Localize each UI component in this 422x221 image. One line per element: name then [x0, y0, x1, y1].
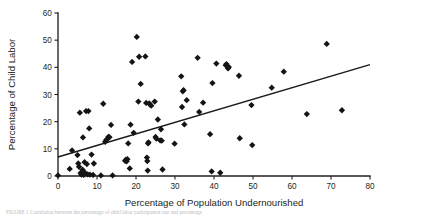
x-tick-label: 20: [131, 182, 141, 191]
y-tick-label: 20: [43, 118, 53, 127]
figure-container: 010203040506001020304050607080 Percentag…: [0, 0, 422, 221]
x-tick-label: 30: [170, 182, 180, 191]
y-tick-label: 30: [43, 91, 53, 100]
y-axis-title: Percentage of Child Labor: [6, 38, 17, 150]
y-tick-label: 60: [43, 9, 53, 18]
x-tick-label: 0: [56, 182, 61, 191]
x-tick-label: 60: [287, 182, 297, 191]
x-tick-label: 50: [248, 182, 258, 191]
x-axis-title: Percentage of Population Undernourished: [125, 197, 304, 208]
x-tick-label: 80: [365, 182, 375, 191]
y-tick-label: 0: [47, 172, 52, 181]
scatter-chart: 010203040506001020304050607080 Percentag…: [0, 0, 422, 221]
x-tick-label: 40: [209, 182, 219, 191]
y-tick-label: 50: [43, 36, 53, 45]
x-tick-label: 70: [326, 182, 336, 191]
figure-caption: FIGURE 1 Correlation between the percent…: [6, 209, 418, 215]
x-tick-label: 10: [92, 182, 102, 191]
y-tick-label: 40: [43, 63, 53, 72]
y-tick-label: 10: [43, 145, 53, 154]
